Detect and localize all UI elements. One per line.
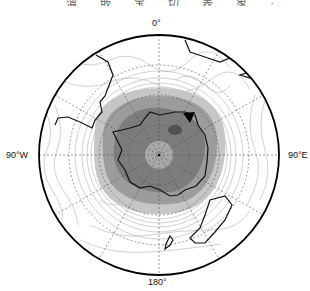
longitude-label-0: 0° xyxy=(152,19,161,28)
polar-map xyxy=(0,0,310,291)
longitude-label-90w: 90°W xyxy=(6,151,28,160)
longitude-label-90e: 90°E xyxy=(288,151,308,160)
longitude-label-180: 180° xyxy=(148,278,167,287)
shaded-field xyxy=(94,88,225,214)
south-pole-marker xyxy=(158,154,160,156)
